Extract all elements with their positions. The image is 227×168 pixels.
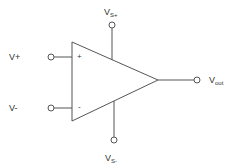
op-amp-triangle [72,42,158,121]
plus-sign: + [77,52,82,62]
output-label-sub: out [215,80,223,86]
non-inverting-input-terminal [48,54,54,60]
positive-supply-terminal [109,22,115,28]
negative-supply-label-sub: S- [111,158,117,164]
negative-supply-label: VS- [105,153,117,166]
non-inverting-input-label: V+ [9,52,20,62]
output-label: Vout [209,75,223,88]
output-terminal [194,77,200,83]
negative-supply-terminal [111,137,117,143]
positive-supply-label-sub: S+ [110,12,118,18]
inverting-input-label: V- [9,103,18,113]
minus-sign: - [78,102,81,112]
op-amp-schematic [0,0,227,168]
inverting-input-terminal [48,105,54,111]
op-amp-diagram: V+ V- + - VS+ VS- Vout [0,0,227,168]
positive-supply-label: VS+ [104,7,118,20]
